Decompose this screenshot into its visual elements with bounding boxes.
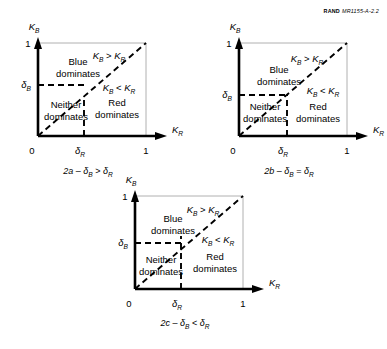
inequality-upper: KB > KR <box>187 204 220 217</box>
x-tick-one: 1 <box>143 145 148 156</box>
panel-2c: KB KR 1 δB 0 δR 1 Blue dominates Red dom… <box>103 168 283 333</box>
caption-lhs-sub: B <box>88 171 92 178</box>
red-dominates-line2: dominates <box>95 109 139 120</box>
neither-dominates-line2: dominates <box>243 113 287 124</box>
x-tick-delta-r: δR <box>278 145 288 158</box>
caption-lhs-sub: B <box>185 323 189 330</box>
y-tick-one: 1 <box>122 191 127 202</box>
x-tick-one: 1 <box>240 298 245 309</box>
y-axis-label: KB <box>230 21 241 34</box>
rand-org-label: RAND <box>324 8 340 14</box>
inequality-upper: KB > KR <box>93 50 126 63</box>
y-tick-delta-b: δB <box>118 237 128 250</box>
y-axis-label: KB <box>126 174 137 187</box>
y-tick-one: 1 <box>226 38 231 49</box>
x-tick-one: 1 <box>344 145 349 156</box>
panel-2b-plot: KB KR 1 δB 0 δR 1 Blue dominates Red dom… <box>207 18 387 163</box>
panel-2c-plot: KB KR 1 δB 0 δR 1 Blue dominates Red dom… <box>103 168 283 318</box>
x-axis-label: KR <box>269 277 280 290</box>
x-tick-delta-r: δR <box>172 298 182 311</box>
x-axis-arrow <box>155 132 167 140</box>
x-tick-delta-r: δR <box>75 145 85 158</box>
caption-label: 2c <box>160 318 170 328</box>
neither-dominates-line2: dominates <box>44 111 88 122</box>
inequality-lower: KB < KR <box>307 85 340 98</box>
caption-dash: – <box>76 166 81 176</box>
panel-2b: KB KR 1 δB 0 δR 1 Blue dominates Red dom… <box>207 18 387 178</box>
blue-dominates-line1: Blue <box>163 213 182 224</box>
panel-2a-plot: KB KR 1 δB 0 δR 1 Blue dominates Red dom… <box>6 18 186 163</box>
x-tick-zero: 0 <box>230 145 235 156</box>
y-tick-delta-b: δB <box>21 79 31 92</box>
neither-dominates-line1: Neither <box>250 101 281 112</box>
neither-dominates-line2: dominates <box>139 266 183 277</box>
inequality-lower: KB < KR <box>103 82 136 95</box>
red-dominates-line1: Red <box>206 251 223 262</box>
inequality-upper: KB > KR <box>291 53 324 66</box>
panel-2a: KB KR 1 δB 0 δR 1 Blue dominates Red dom… <box>6 18 186 178</box>
x-tick-zero: 0 <box>29 145 34 156</box>
red-dominates-line2: dominates <box>296 113 340 124</box>
inequality-lower: KB < KR <box>202 234 235 247</box>
blue-dominates-line1: Blue <box>269 64 288 75</box>
x-tick-zero: 0 <box>126 298 131 309</box>
caption-label: 2a <box>63 166 73 176</box>
caption-op: > <box>95 166 100 176</box>
blue-dominates-line2: dominates <box>151 225 195 236</box>
y-axis-label: KB <box>29 21 40 34</box>
blue-dominates-line1: Blue <box>68 56 87 67</box>
panel-2c-caption: 2c – δB < δR <box>95 318 275 330</box>
caption-rhs-sub: R <box>309 171 314 178</box>
rand-doc-code: MR1155-A-2.2 <box>340 8 379 14</box>
y-tick-delta-b: δB <box>222 89 232 102</box>
blue-dominates-line2: dominates <box>56 68 100 79</box>
rand-credit: RANDMR1155-A-2.2 <box>324 8 379 14</box>
caption-op: < <box>192 318 197 328</box>
red-dominates-line2: dominates <box>193 263 237 274</box>
caption-lhs-sub: B <box>289 171 293 178</box>
y-tick-one: 1 <box>25 38 30 49</box>
caption-dash: – <box>173 318 178 328</box>
x-axis-label: KR <box>373 124 384 137</box>
neither-dominates-line1: Neither <box>51 99 82 110</box>
x-axis-arrow <box>252 285 264 293</box>
x-axis-arrow <box>356 132 368 140</box>
caption-rhs-sub: R <box>205 323 210 330</box>
neither-dominates-line1: Neither <box>146 254 177 265</box>
red-dominates-line1: Red <box>108 97 125 108</box>
blue-dominates-line2: dominates <box>257 76 301 87</box>
caption-op: = <box>296 166 301 176</box>
red-dominates-line1: Red <box>309 101 326 112</box>
x-axis-label: KR <box>172 124 183 137</box>
